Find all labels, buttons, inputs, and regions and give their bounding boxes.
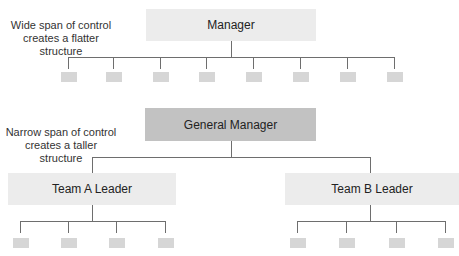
team-b-horizontal-bar — [297, 221, 446, 222]
team-a-connector — [92, 157, 93, 173]
narrow-horizontal-bar — [92, 157, 371, 158]
wide-tick — [68, 57, 69, 69]
manager-label: Manager — [207, 18, 254, 32]
team-a-tick — [20, 221, 21, 233]
wide-tick — [253, 57, 254, 69]
team-a-leader-label: Team A Leader — [52, 182, 132, 196]
general-manager-stem — [231, 141, 232, 157]
team-b-tick — [396, 221, 397, 233]
wide-subordinate-box — [340, 72, 356, 82]
wide-tick — [160, 57, 161, 69]
team-b-connector — [370, 157, 371, 173]
wide-tick — [206, 57, 207, 69]
wide-subordinate-box — [199, 72, 215, 82]
general-manager-box: General Manager — [145, 108, 316, 141]
narrow-span-caption: Narrow span of control creates a taller … — [3, 126, 119, 165]
team-b-subordinate-box — [339, 238, 355, 248]
wide-subordinate-box — [387, 72, 403, 82]
team-b-leader-label: Team B Leader — [331, 182, 412, 196]
team-b-tick — [297, 221, 298, 233]
team-a-subordinate-box — [109, 238, 125, 248]
team-a-tick — [165, 221, 166, 233]
team-b-leader-box: Team B Leader — [285, 173, 459, 205]
wide-tick — [347, 57, 348, 69]
wide-tick — [113, 57, 114, 69]
wide-subordinate-box — [106, 72, 122, 82]
team-a-subordinate-box — [158, 238, 174, 248]
narrow-span-caption-line1: Narrow span of control — [3, 126, 119, 139]
wide-tick — [300, 57, 301, 69]
team-b-stem — [370, 205, 371, 221]
wide-span-caption-line2: creates a flatter structure — [2, 32, 120, 58]
general-manager-label: General Manager — [184, 118, 277, 132]
wide-tick — [394, 57, 395, 69]
narrow-span-caption-line2: creates a taller structure — [3, 139, 119, 165]
wide-span-caption: Wide span of control creates a flatter s… — [2, 19, 120, 58]
team-b-tick — [445, 221, 446, 233]
team-a-horizontal-bar — [20, 221, 166, 222]
wide-horizontal-bar — [68, 57, 395, 58]
team-a-tick — [68, 221, 69, 233]
team-a-stem — [92, 205, 93, 221]
team-a-subordinate-box — [61, 238, 77, 248]
team-a-leader-box: Team A Leader — [8, 173, 176, 205]
wide-subordinate-box — [153, 72, 169, 82]
team-b-subordinate-box — [389, 238, 405, 248]
team-b-subordinate-box — [290, 238, 306, 248]
manager-box: Manager — [146, 9, 316, 41]
team-a-subordinate-box — [13, 238, 29, 248]
wide-subordinate-box — [246, 72, 262, 82]
team-a-tick — [116, 221, 117, 233]
wide-subordinate-box — [61, 72, 77, 82]
team-b-subordinate-box — [438, 238, 454, 248]
manager-stem — [231, 41, 232, 57]
wide-subordinate-box — [293, 72, 309, 82]
wide-span-caption-line1: Wide span of control — [2, 19, 120, 32]
team-b-tick — [346, 221, 347, 233]
